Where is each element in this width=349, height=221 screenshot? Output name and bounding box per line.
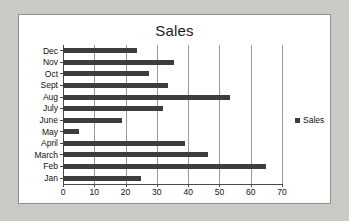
- legend: Sales: [295, 116, 324, 125]
- bar[interactable]: [63, 152, 208, 157]
- bar-row: Nov: [63, 57, 282, 69]
- bar[interactable]: [63, 83, 168, 88]
- y-axis-tick: [60, 50, 63, 51]
- category-label: Feb: [43, 162, 58, 171]
- legend-label: Sales: [303, 116, 324, 125]
- x-axis-tick-label: 40: [183, 188, 192, 197]
- legend-square-marker: [295, 118, 300, 123]
- bar[interactable]: [63, 60, 174, 65]
- y-axis-tick: [60, 120, 63, 121]
- category-label: Jan: [44, 174, 58, 183]
- bar[interactable]: [63, 106, 163, 111]
- chart-panel: Sales DecNovOctSeptAugJulyJuneMayAprilMa…: [18, 14, 331, 204]
- plot-area: DecNovOctSeptAugJulyJuneMayAprilMarchFeb…: [63, 45, 282, 184]
- bar-row: Oct: [63, 68, 282, 80]
- x-axis-tick-label: 0: [61, 188, 66, 197]
- category-label: March: [34, 151, 58, 160]
- x-axis-tick-label: 50: [215, 188, 224, 197]
- y-axis-tick: [60, 73, 63, 74]
- bar[interactable]: [63, 129, 79, 134]
- bar-row: July: [63, 103, 282, 115]
- gridline-70: [282, 45, 283, 184]
- bar[interactable]: [63, 48, 137, 53]
- bar-row: Sept: [63, 80, 282, 92]
- y-axis-tick: [60, 131, 63, 132]
- x-axis-tick-label: 10: [90, 188, 99, 197]
- bar-row: June: [63, 114, 282, 126]
- x-axis-tick-label: 30: [152, 188, 161, 197]
- bar[interactable]: [63, 164, 266, 169]
- bar-rows: DecNovOctSeptAugJulyJuneMayAprilMarchFeb…: [63, 45, 282, 184]
- chart-title: Sales: [19, 22, 330, 39]
- bar[interactable]: [63, 118, 122, 123]
- y-axis-tick: [60, 178, 63, 179]
- bar-row: Dec: [63, 45, 282, 57]
- bar[interactable]: [63, 71, 149, 76]
- bar-row: Feb: [63, 161, 282, 173]
- category-label: June: [40, 116, 58, 125]
- y-axis-tick: [60, 108, 63, 109]
- x-axis-tick-label: 70: [277, 188, 286, 197]
- y-axis-tick: [60, 166, 63, 167]
- y-axis-tick: [60, 154, 63, 155]
- x-axis-tick-label: 60: [246, 188, 255, 197]
- y-axis-tick: [60, 143, 63, 144]
- bar-row: Jan: [63, 172, 282, 184]
- y-axis-tick: [60, 97, 63, 98]
- bar-row: Aug: [63, 91, 282, 103]
- category-label: Dec: [43, 47, 58, 56]
- category-label: Sept: [41, 81, 59, 90]
- category-label: Nov: [43, 58, 58, 67]
- x-axis-tick-label: 20: [121, 188, 130, 197]
- bar-row: May: [63, 126, 282, 138]
- category-label: Oct: [45, 70, 58, 79]
- y-axis-tick: [60, 85, 63, 86]
- category-label: May: [42, 128, 58, 137]
- bar-row: April: [63, 138, 282, 150]
- bar[interactable]: [63, 176, 141, 181]
- bar[interactable]: [63, 95, 230, 100]
- y-axis-tick: [60, 62, 63, 63]
- category-label: July: [43, 104, 58, 113]
- bar-row: March: [63, 149, 282, 161]
- bar[interactable]: [63, 141, 185, 146]
- category-label: Aug: [43, 93, 58, 102]
- category-label: April: [41, 139, 58, 148]
